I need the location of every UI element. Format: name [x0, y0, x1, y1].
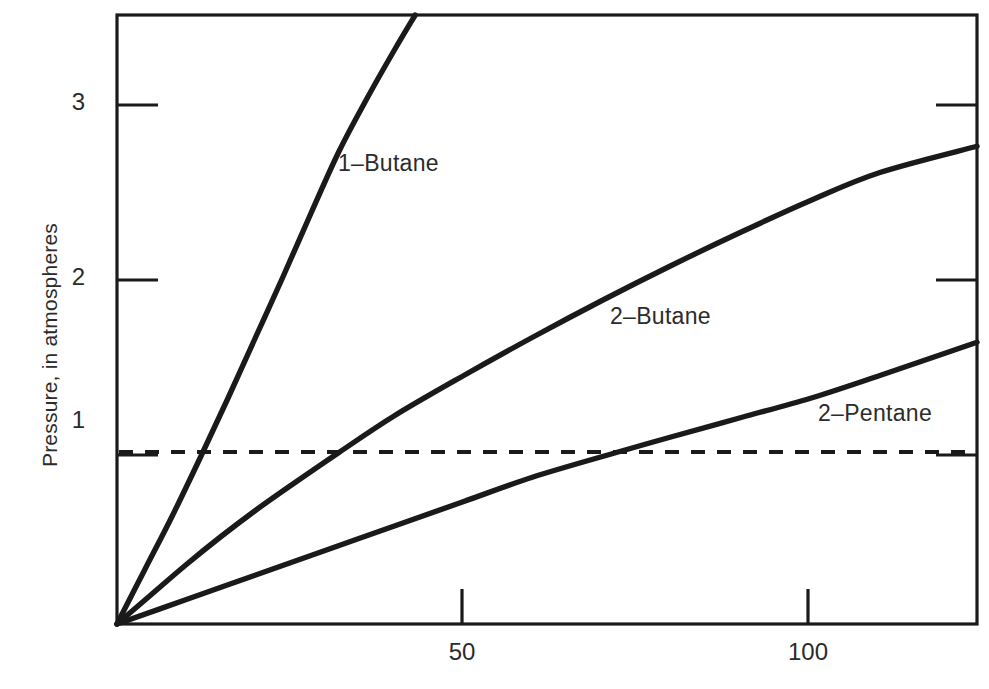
y-tick-label-3: 3: [45, 88, 85, 116]
series-label-2-butane: 2–Butane: [610, 303, 711, 330]
plot-frame: [117, 15, 977, 624]
x-tick-label-50: 50: [432, 638, 492, 666]
y-axis-title: Pressure, in atmospheres: [38, 170, 62, 520]
x-axis-ticks: [462, 589, 808, 624]
chart-canvas: [0, 0, 989, 689]
pressure-vs-composition-chart: Pressure, in atmospheres 3 2 1 50 100 1–…: [0, 0, 989, 689]
series-label-1-butane: 1–Butane: [338, 150, 439, 177]
series-label-2-pentane: 2–Pentane: [818, 400, 932, 427]
y-tick-label-1: 1: [45, 406, 85, 434]
x-tick-label-100: 100: [770, 638, 846, 666]
curve-2-pentane: [117, 342, 977, 624]
series-curves: [117, 15, 977, 624]
y-axis-ticks: [117, 105, 158, 455]
y-tick-label-2: 2: [45, 263, 85, 291]
